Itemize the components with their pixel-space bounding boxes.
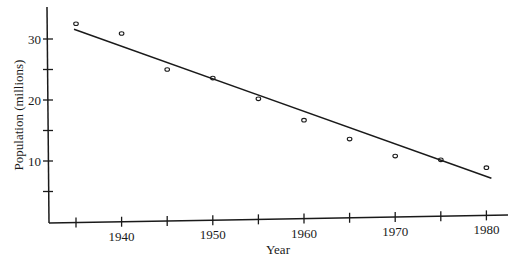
population-chart: 102030 19401950196019701980 Year Populat… (0, 0, 513, 265)
y-tick-label: 30 (28, 32, 41, 47)
x-ticks: 19401950196019701980 (76, 210, 499, 243)
x-axis-label: Year (266, 242, 291, 257)
data-point (302, 118, 307, 122)
data-point (256, 97, 261, 101)
y-tick-label: 20 (28, 93, 41, 108)
trend-line (74, 29, 491, 178)
x-tick-label: 1940 (109, 229, 135, 244)
data-point (119, 32, 124, 36)
x-tick-label: 1950 (200, 227, 226, 242)
x-axis (49, 215, 508, 223)
y-axis-label: Population (millions) (11, 60, 26, 171)
x-tick-label: 1980 (473, 222, 499, 237)
fit-line (74, 29, 491, 178)
data-points (74, 22, 489, 170)
x-tick-label: 1970 (382, 224, 408, 239)
x-tick-label: 1960 (291, 226, 317, 241)
data-point (74, 22, 79, 26)
data-point (165, 68, 170, 72)
y-ticks: 102030 (28, 32, 53, 192)
y-tick-label: 10 (28, 154, 41, 169)
data-point (484, 166, 489, 170)
axes (47, 7, 508, 223)
data-point (347, 137, 352, 141)
data-point (393, 154, 398, 158)
